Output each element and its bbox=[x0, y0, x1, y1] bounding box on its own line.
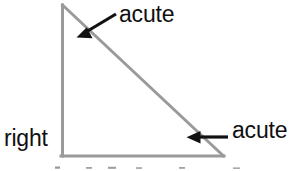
acute-right-arrow-head bbox=[187, 131, 201, 143]
acute-right-label: acute bbox=[232, 119, 287, 142]
diagram-canvas: acute acute right bbox=[0, 0, 298, 171]
acute-top-arrow bbox=[77, 14, 117, 38]
acute-top-label: acute bbox=[119, 3, 174, 26]
right-angle-label: right bbox=[4, 127, 48, 150]
acute-top-arrow-shaft bbox=[86, 14, 116, 32]
cropped-text-artifacts bbox=[55, 167, 240, 170]
